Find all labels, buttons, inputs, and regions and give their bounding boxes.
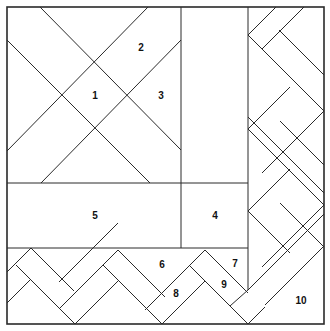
piece-label-1: 1	[92, 91, 98, 101]
piece-label-7: 7	[232, 259, 238, 269]
piece-label-5: 5	[92, 211, 98, 221]
piece-label-4: 4	[212, 211, 218, 221]
piece-label-3: 3	[158, 91, 164, 101]
piece-label-9: 9	[221, 280, 227, 290]
outer-frame	[7, 7, 324, 324]
piece-label-10: 10	[295, 296, 306, 306]
piece-label-6: 6	[159, 260, 165, 270]
piece-label-8: 8	[173, 289, 179, 299]
quilt-diagram	[0, 0, 330, 331]
piece-label-2: 2	[138, 43, 144, 53]
